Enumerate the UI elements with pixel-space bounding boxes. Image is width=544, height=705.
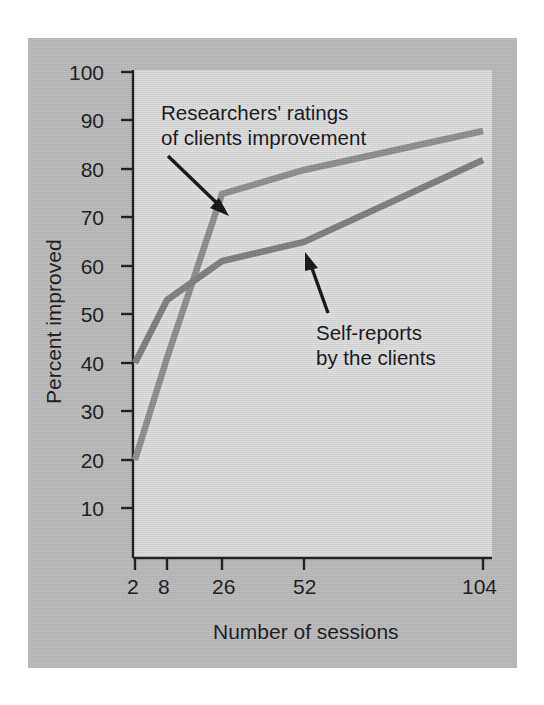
y-axis-ticks [121, 72, 133, 508]
figure-panel: 100 90 80 70 60 50 40 30 20 10 2 8 26 52… [28, 38, 517, 668]
chart-canvas [28, 38, 517, 668]
x-axis-ticks [135, 558, 483, 570]
annotation-arrow-self-reports [305, 252, 328, 313]
annotation-arrow-researchers [168, 156, 229, 216]
figure-root: 100 90 80 70 60 50 40 30 20 10 2 8 26 52… [0, 0, 544, 705]
